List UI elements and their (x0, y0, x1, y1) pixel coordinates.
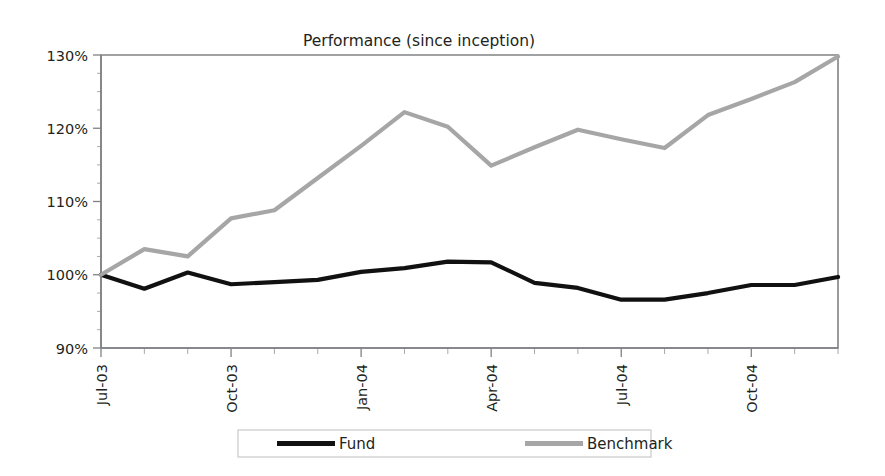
plot-background (101, 55, 838, 348)
y-axis-tick-label: 120% (47, 121, 88, 137)
x-axis-tick-label: Jul-03 (94, 364, 110, 406)
y-axis-tick-labels: 90%100%110%120%130% (47, 48, 88, 357)
x-axis-tick-label: Oct-03 (224, 364, 240, 413)
x-axis-tick-label: Jan-04 (354, 364, 370, 411)
x-axis-tick-labels: Jul-03Oct-03Jan-04Apr-04Jul-04Oct-04 (94, 364, 760, 413)
x-axis-tick-label: Apr-04 (484, 364, 500, 412)
chart-canvas: Performance (since inception) 90%100%110… (0, 0, 885, 476)
legend-label-fund: Fund (339, 435, 375, 453)
chart-title: Performance (since inception) (303, 32, 535, 50)
x-axis-tick-label: Jul-04 (614, 364, 630, 406)
legend-label-benchmark: Benchmark (587, 435, 673, 453)
y-axis-tick-label: 110% (47, 194, 88, 210)
y-axis-tick-label: 130% (47, 48, 88, 64)
y-axis-tick-label: 90% (56, 341, 88, 357)
y-axis-ticks (93, 55, 101, 348)
y-axis-tick-label: 100% (47, 267, 88, 283)
x-axis-ticks (101, 348, 838, 357)
performance-chart: Performance (since inception) 90%100%110… (0, 0, 885, 476)
x-axis-tick-label: Oct-04 (744, 364, 760, 413)
